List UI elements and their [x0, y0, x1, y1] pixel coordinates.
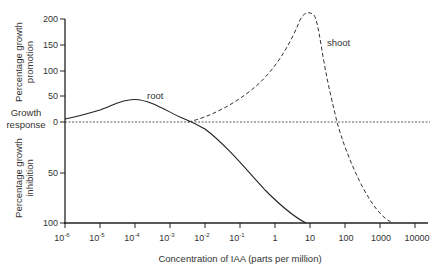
y-tick-label: 0 — [53, 117, 58, 127]
svg-text:promotion: promotion — [24, 41, 35, 83]
x-tick-label: 10-4 — [124, 232, 140, 243]
x-tick-label: 1000 — [371, 233, 391, 243]
y-tick-label: 150 — [43, 40, 58, 50]
root-label: root — [147, 90, 164, 101]
svg-text:inhibition: inhibition — [24, 159, 35, 197]
x-tick-label: 10000 — [404, 233, 429, 243]
x-tick-label: 10-6 — [54, 232, 70, 243]
y-tick-label: 100 — [43, 66, 58, 76]
x-tick-label: 10-1 — [229, 232, 245, 243]
x-tick-label: 10 — [305, 233, 315, 243]
y-tick-label: 200 — [43, 14, 58, 24]
y-tick-label: 50 — [48, 168, 58, 178]
growth-response-chart: 200 150 100 50 0 50 100 10-6 10-5 10-4 1… — [0, 0, 443, 273]
svg-text:Percentage growth: Percentage growth — [13, 22, 24, 102]
y-ticks-inhibition: 50 100 — [43, 168, 65, 228]
x-ticks — [65, 223, 415, 228]
x-tick-label: 1 — [272, 233, 277, 243]
svg-text:Percentage growth: Percentage growth — [13, 138, 24, 218]
y-axis-label-growth-response: Growth response — [6, 107, 45, 130]
x-tick-label: 10-5 — [89, 232, 105, 243]
y-tick-label: 50 — [48, 91, 58, 101]
y-axis-label-inhibition: Percentage growth inhibition — [13, 138, 35, 218]
x-tick-label: 10-2 — [194, 232, 210, 243]
svg-text:Growth: Growth — [11, 107, 42, 118]
shoot-label: shoot — [327, 37, 351, 48]
svg-text:response: response — [6, 119, 45, 130]
x-tick-label: 100 — [338, 233, 353, 243]
x-tick-label: 10-3 — [159, 232, 175, 243]
y-axis-label-promotion: Percentage growth promotion — [13, 22, 35, 102]
x-tick-labels: 10-6 10-5 10-4 10-3 10-2 10-1 1 10 100 1… — [54, 232, 429, 243]
y-ticks-promotion: 200 150 100 50 0 — [43, 14, 65, 127]
shoot-curve — [188, 13, 393, 223]
x-axis-label: Concentration of IAA (parts per million) — [158, 253, 321, 264]
root-curve — [65, 99, 306, 223]
y-tick-label: 100 — [43, 218, 58, 228]
